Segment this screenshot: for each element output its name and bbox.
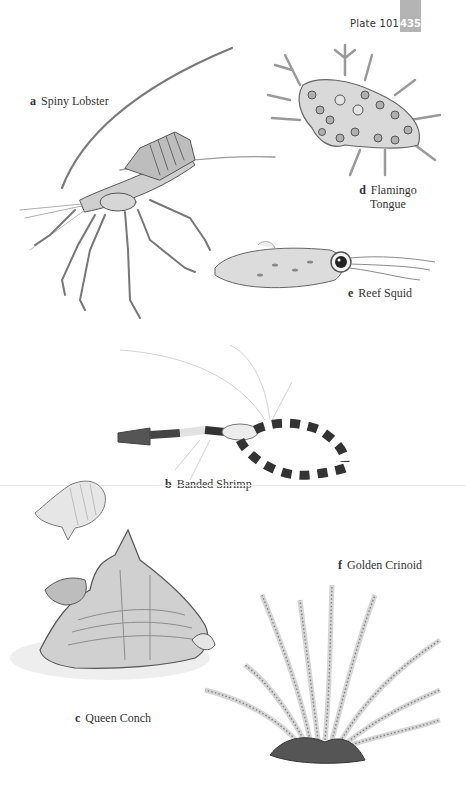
golden-crinoid-illustration <box>0 0 466 809</box>
caption-golden-crinoid: fGolden Crinoid <box>338 558 422 572</box>
caption-name: Golden Crinoid <box>347 558 422 572</box>
caption-letter: f <box>338 558 342 572</box>
